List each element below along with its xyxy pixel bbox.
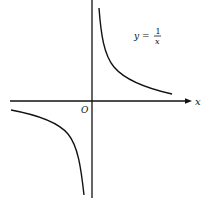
equation-denominator: x (155, 37, 160, 46)
equation-numerator: 1 (156, 27, 161, 36)
origin-label: O (81, 105, 89, 115)
curve-branch-positive (99, 8, 172, 94)
equation-label: y = 1 x (133, 27, 161, 46)
x-axis-arrow-icon (185, 98, 192, 104)
x-axis-label: x (195, 96, 201, 107)
equation-lhs: y = (133, 31, 150, 41)
curve-branch-negative (11, 110, 84, 195)
hyperbola-plot: x O y = 1 x (0, 0, 214, 202)
